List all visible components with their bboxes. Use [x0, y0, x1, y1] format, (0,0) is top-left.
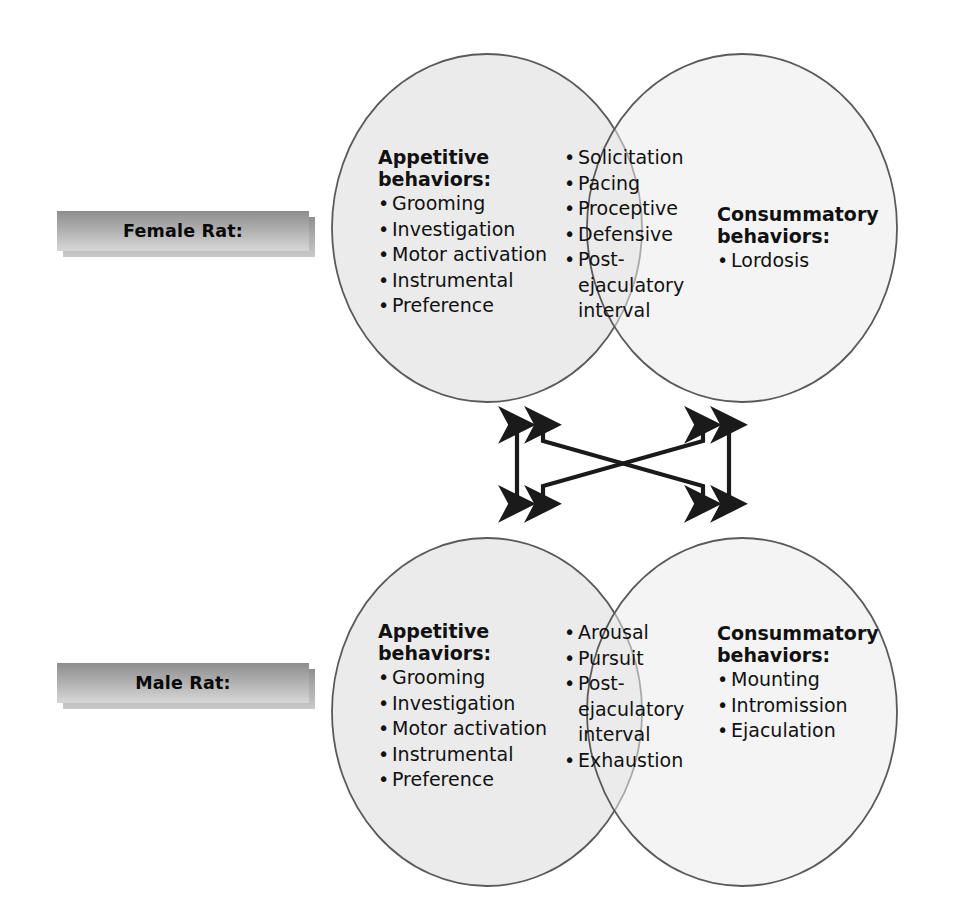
bullet-icon: •	[378, 716, 389, 742]
list-item: •Proceptive	[564, 196, 690, 222]
plaque-face: Female Rat:	[57, 211, 309, 251]
bullet-icon: •	[378, 767, 389, 793]
list-item: •Post- ejaculatory interval	[564, 247, 690, 324]
male-overlap-list: •Arousal •Pursuit •Post- ejaculatory int…	[564, 620, 690, 773]
list-item-label: Post- ejaculatory interval	[578, 672, 684, 745]
bullet-icon: •	[717, 248, 728, 274]
female-overlap-list: •Solicitation •Pacing •Proceptive •Defen…	[564, 145, 690, 324]
female-appetitive-list: •Grooming •Investigation •Motor activati…	[378, 191, 568, 319]
list-item-label: Motor activation	[392, 717, 547, 739]
bullet-icon: •	[564, 145, 575, 171]
list-item: •Exhaustion	[564, 748, 690, 774]
list-item: •Post- ejaculatory interval	[564, 671, 690, 748]
list-item: •Motor activation	[378, 242, 568, 268]
bullet-icon: •	[717, 667, 728, 693]
bullet-icon: •	[564, 671, 575, 697]
list-item: •Motor activation	[378, 716, 568, 742]
list-item-label: Preference	[392, 294, 494, 316]
list-item: •Preference	[378, 767, 568, 793]
bullet-icon: •	[378, 665, 389, 691]
female-appetitive-header: Appetitive behaviors:	[378, 146, 568, 190]
arrow-female-consummatory-to-male-appetitive	[543, 424, 703, 503]
male-appetitive-text-block: Appetitive behaviors: •Grooming •Investi…	[378, 620, 568, 793]
list-item-label: Proceptive	[578, 197, 678, 219]
female-consummatory-list: •Lordosis	[717, 248, 917, 274]
list-item-label: Solicitation	[578, 146, 683, 168]
list-item-label: Ejaculation	[731, 719, 836, 741]
bullet-icon: •	[564, 247, 575, 273]
list-item: •Solicitation	[564, 145, 690, 171]
list-item-label: Arousal	[578, 621, 649, 643]
list-item: •Preference	[378, 293, 568, 319]
bullet-icon: •	[564, 620, 575, 646]
male-consummatory-list: •Mounting •Intromission •Ejaculation	[717, 667, 922, 744]
bullet-icon: •	[378, 268, 389, 294]
list-item: •Arousal	[564, 620, 690, 646]
female-overlap-text-block: •Solicitation •Pacing •Proceptive •Defen…	[564, 145, 690, 324]
bullet-icon: •	[564, 171, 575, 197]
plaque-face: Male Rat:	[57, 663, 309, 703]
list-item-label: Motor activation	[392, 243, 547, 265]
bullet-icon: •	[378, 217, 389, 243]
list-item: •Investigation	[378, 217, 568, 243]
male-rat-label-plaque: Male Rat:	[57, 663, 309, 709]
bullet-icon: •	[564, 748, 575, 774]
male-overlap-text-block: •Arousal •Pursuit •Post- ejaculatory int…	[564, 620, 690, 773]
list-item: •Mounting	[717, 667, 922, 693]
list-item: •Defensive	[564, 222, 690, 248]
bullet-icon: •	[717, 718, 728, 744]
list-item: •Grooming	[378, 191, 568, 217]
list-item: •Lordosis	[717, 248, 917, 274]
list-item: •Instrumental	[378, 742, 568, 768]
bullet-icon: •	[378, 691, 389, 717]
bullet-icon: •	[378, 293, 389, 319]
male-appetitive-list: •Grooming •Investigation •Motor activati…	[378, 665, 568, 793]
male-consummatory-text-block: Consummatory behaviors: •Mounting •Intro…	[717, 622, 922, 744]
list-item: •Pursuit	[564, 646, 690, 672]
list-item-label: Pacing	[578, 172, 640, 194]
list-item: •Pacing	[564, 171, 690, 197]
female-consummatory-text-block: Consummatory behaviors: •Lordosis	[717, 203, 917, 274]
list-item: •Grooming	[378, 665, 568, 691]
list-item-label: Preference	[392, 768, 494, 790]
list-item: •Investigation	[378, 691, 568, 717]
list-item: •Instrumental	[378, 268, 568, 294]
list-item-label: Investigation	[392, 692, 515, 714]
list-item-label: Exhaustion	[578, 749, 683, 771]
bullet-icon: •	[717, 693, 728, 719]
male-consummatory-header: Consummatory behaviors:	[717, 622, 922, 666]
female-rat-label-plaque: Female Rat:	[57, 211, 309, 257]
female-appetitive-text-block: Appetitive behaviors: •Grooming •Investi…	[378, 146, 568, 319]
bullet-icon: •	[564, 222, 575, 248]
bullet-icon: •	[564, 646, 575, 672]
list-item-label: Defensive	[578, 223, 673, 245]
male-appetitive-header: Appetitive behaviors:	[378, 620, 568, 664]
figure-canvas: Female Rat: Male Rat: Appetitive behavio…	[0, 0, 966, 915]
list-item-label: Grooming	[392, 192, 485, 214]
list-item-label: Instrumental	[392, 743, 513, 765]
bullet-icon: •	[378, 242, 389, 268]
female-consummatory-header: Consummatory behaviors:	[717, 203, 917, 247]
bullet-icon: •	[378, 742, 389, 768]
list-item-label: Investigation	[392, 218, 515, 240]
male-rat-label-text: Male Rat:	[57, 663, 309, 703]
list-item-label: Post- ejaculatory interval	[578, 248, 684, 321]
bullet-icon: •	[378, 191, 389, 217]
connector-arrows	[517, 424, 729, 503]
female-rat-label-text: Female Rat:	[57, 211, 309, 251]
list-item-label: Intromission	[731, 694, 848, 716]
list-item-label: Grooming	[392, 666, 485, 688]
list-item: •Ejaculation	[717, 718, 922, 744]
list-item-label: Instrumental	[392, 269, 513, 291]
list-item-label: Mounting	[731, 668, 820, 690]
list-item-label: Pursuit	[578, 647, 644, 669]
bullet-icon: •	[564, 196, 575, 222]
list-item: •Intromission	[717, 693, 922, 719]
list-item-label: Lordosis	[731, 249, 809, 271]
